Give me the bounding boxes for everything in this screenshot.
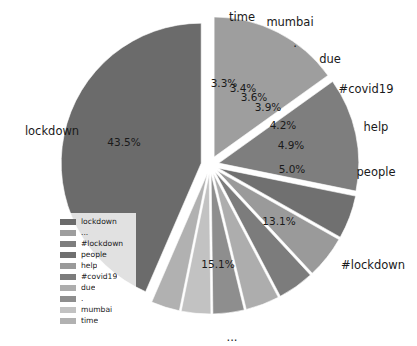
pie-slice-name-label: mumbai [266, 15, 313, 29]
chart-legend: lockdown...#lockdownpeoplehelp#covid19du… [56, 213, 136, 328]
pie-slice-percent-label: 13.1% [262, 215, 295, 227]
pie-slice-name-label: time [229, 10, 255, 24]
legend-item-label: #lockdown [81, 238, 123, 249]
legend-item[interactable]: mumbai [60, 304, 132, 315]
legend-item-label: help [81, 260, 97, 271]
pie-slice-percent-label: 4.9% [278, 139, 305, 151]
legend-item-label: time [81, 315, 98, 326]
legend-color-swatch [60, 285, 76, 291]
legend-color-swatch [60, 307, 76, 313]
pie-slice-name-label: . [293, 36, 297, 50]
legend-item[interactable]: . [60, 293, 132, 304]
legend-item-label: lockdown [81, 216, 117, 227]
legend-color-swatch [60, 274, 76, 280]
pie-slice-name-label: due [319, 52, 341, 66]
pie-slice-percent-label: 15.1% [201, 258, 234, 270]
legend-item-label: mumbai [81, 304, 112, 315]
legend-color-swatch [60, 252, 76, 258]
pie-slice-name-label: ... [227, 330, 238, 344]
pie-slice-name-label: people [357, 165, 396, 179]
pie-slice-percent-label: 5.0% [279, 163, 306, 175]
pie-chart: 43.5%3.3%3.4%3.6%3.9%4.2%4.9%5.0%13.1%15… [0, 0, 417, 346]
pie-slice-name-label: lockdown [25, 124, 79, 138]
legend-item[interactable]: lockdown [60, 216, 132, 227]
legend-item-label: ... [81, 227, 88, 238]
legend-color-swatch [60, 230, 76, 236]
legend-item-label: #covid19 [81, 271, 117, 282]
legend-item[interactable]: #lockdown [60, 238, 132, 249]
legend-item[interactable]: due [60, 282, 132, 293]
legend-color-swatch [60, 263, 76, 269]
legend-item-label: . [81, 293, 83, 304]
legend-item[interactable]: help [60, 260, 132, 271]
pie-slice-percent-label: 43.5% [107, 136, 140, 148]
legend-color-swatch [60, 296, 76, 302]
legend-item-label: people [81, 249, 107, 260]
pie-slice-percent-label: 4.2% [270, 119, 297, 131]
pie-slice-percent-label: 3.9% [255, 101, 282, 113]
legend-item[interactable]: time [60, 315, 132, 326]
legend-item[interactable]: people [60, 249, 132, 260]
legend-color-swatch [60, 318, 76, 324]
legend-color-swatch [60, 241, 76, 247]
legend-color-swatch [60, 219, 76, 225]
legend-item[interactable]: #covid19 [60, 271, 132, 282]
pie-slice-name-label: help [364, 120, 389, 134]
pie-slice-name-label: #covid19 [339, 82, 394, 96]
legend-item-label: due [81, 282, 95, 293]
legend-item[interactable]: ... [60, 227, 132, 238]
pie-slice-name-label: #lockdown [341, 258, 405, 272]
